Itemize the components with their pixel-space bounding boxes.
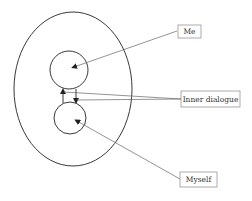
inner-dialogue-arrows [63, 89, 76, 103]
leader-lines [64, 31, 181, 179]
diagram-svg: Me Inner dialogue Myself [0, 0, 252, 201]
me-circle [50, 51, 88, 89]
label-inner-dialogue-text: Inner dialogue [183, 95, 239, 104]
myself-circle [54, 102, 86, 134]
label-myself: Myself [180, 172, 217, 187]
label-me-text: Me [183, 27, 196, 36]
self-diagram: Me Inner dialogue Myself [0, 0, 252, 201]
label-inner-dialogue: Inner dialogue [181, 91, 240, 107]
label-myself-text: Myself [186, 175, 213, 184]
label-me: Me [178, 25, 201, 38]
